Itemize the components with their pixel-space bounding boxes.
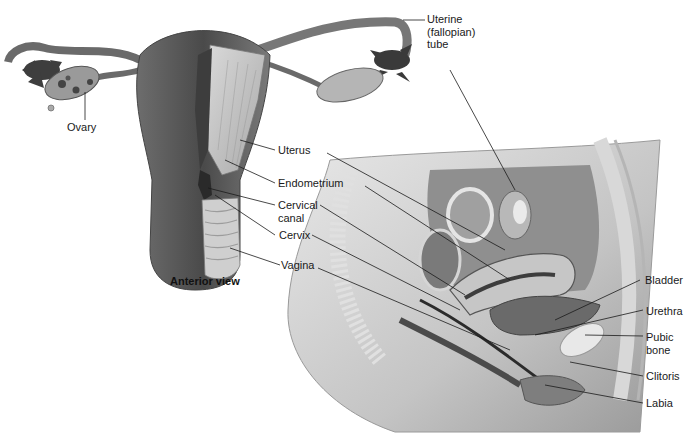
label-cervix: Cervix xyxy=(279,229,310,242)
label-uterine-tube-line1: Uterine xyxy=(427,13,475,26)
label-uterine-tube-line2: (fallopian) xyxy=(427,26,475,39)
label-vagina: Vagina xyxy=(281,259,314,272)
label-endometrium: Endometrium xyxy=(278,177,343,190)
label-cervical-canal: Cervical canal xyxy=(278,199,318,224)
label-pubic-bone-line1: Pubic xyxy=(646,331,674,344)
sagittal-view-illustration xyxy=(288,140,660,432)
illustration xyxy=(0,0,693,445)
label-clitoris: Clitoris xyxy=(646,370,680,383)
caption-anterior-view: Anterior view xyxy=(170,275,240,287)
label-pubic-bone-line2: bone xyxy=(646,344,674,357)
label-uterine-tube-line3: tube xyxy=(427,38,475,51)
anatomy-diagram: Uterine (fallopian) tube Ovary Uterus En… xyxy=(0,0,693,445)
label-bladder: Bladder xyxy=(645,274,683,287)
label-labia: Labia xyxy=(646,397,673,410)
label-cervical-canal-line2: canal xyxy=(278,212,318,225)
label-ovary: Ovary xyxy=(67,121,96,134)
label-uterus: Uterus xyxy=(278,144,310,157)
label-uterine-tube: Uterine (fallopian) tube xyxy=(427,13,475,51)
label-pubic-bone: Pubic bone xyxy=(646,331,674,356)
label-urethra: Urethra xyxy=(646,305,683,318)
label-cervical-canal-line1: Cervical xyxy=(278,199,318,212)
